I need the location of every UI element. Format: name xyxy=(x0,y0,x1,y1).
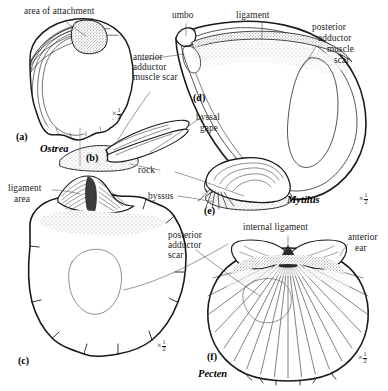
scale-marker-d: ×12 xyxy=(359,193,368,205)
label-area-of-attachment: area of attachment xyxy=(24,6,94,16)
label-ligament: ligament xyxy=(236,10,269,20)
label-internal-ligament: internal ligament xyxy=(243,222,308,232)
label-anterior-adductor-muscle-scar-line2: adductor xyxy=(133,62,166,72)
pecten-valve-f xyxy=(208,240,369,385)
label-byssus: byssus xyxy=(148,191,173,201)
label-line: byssal xyxy=(196,112,220,122)
label-line: scar xyxy=(334,55,349,65)
mytilus-specimen-b xyxy=(60,120,189,171)
label-posterior-adductor-scar-line3: scar xyxy=(168,250,183,260)
label-line: ear xyxy=(355,243,367,253)
label-posterior-adductor-muscle-scar-d: posterior xyxy=(312,22,346,32)
scale-denominator: 2 xyxy=(117,115,121,121)
label-anterior-ear-line2: ear xyxy=(355,243,367,253)
panel-label-a: (a) xyxy=(16,131,28,142)
label-line: posterior xyxy=(168,230,202,240)
panel-label-c: (c) xyxy=(18,355,29,366)
genus-name-pecten: Pecten xyxy=(198,368,227,379)
label-line: adductor xyxy=(318,33,351,43)
label-line: posterior xyxy=(312,22,346,32)
hinge-ligament-area xyxy=(58,176,134,213)
panel-label-e: (e) xyxy=(204,205,215,216)
panel-label-d: (d) xyxy=(193,92,205,103)
scale-marker-c: ×12 xyxy=(157,340,166,352)
bivalve-morphology-figure: area of attachment anterior adductor mus… xyxy=(0,0,388,391)
scale-marker-f: ×12 xyxy=(358,352,367,364)
label-line: muscle xyxy=(327,44,354,54)
label-umbo: umbo xyxy=(172,10,194,20)
label-line: ligament xyxy=(8,183,41,193)
scale-denominator: 2 xyxy=(162,347,166,353)
label-anterior-adductor-muscle-scar: anterior xyxy=(133,52,163,62)
label-line: area xyxy=(14,194,30,204)
genus-name-mytilus: Mytilus xyxy=(287,194,320,205)
label-posterior-adductor-muscle-scar-d-line2: adductor xyxy=(318,33,351,43)
label-line: gape xyxy=(200,123,218,133)
multiply-sign: × xyxy=(112,109,117,118)
label-ligament-area: ligament xyxy=(8,183,41,193)
figure-artwork xyxy=(0,0,388,391)
label-byssal-gape-line2: gape xyxy=(200,123,218,133)
label-line: adductor xyxy=(168,240,201,250)
label-byssal-gape: byssal xyxy=(196,112,220,122)
scale-denominator: 2 xyxy=(363,359,367,365)
genus-name-ostrea: Ostrea xyxy=(40,143,69,154)
multiply-sign: × xyxy=(359,194,364,203)
multiply-sign: × xyxy=(358,353,363,362)
label-line: anterior xyxy=(133,52,163,62)
panel-label-f: (f) xyxy=(207,351,217,362)
scale-marker-a: ×12 xyxy=(112,108,121,120)
panel-label-b: (b) xyxy=(86,152,98,163)
label-anterior-ear: anterior xyxy=(348,232,378,242)
ostrea-interior-c xyxy=(29,176,186,356)
label-posterior-adductor-muscle-scar-d-line3: muscle xyxy=(327,44,354,54)
label-posterior-adductor-scar-line2: adductor xyxy=(168,240,201,250)
label-line: adductor xyxy=(133,62,166,72)
label-ligament-area-line2: area xyxy=(14,194,30,204)
label-line: scar xyxy=(168,250,183,260)
mytilus-byssus-e xyxy=(198,158,292,210)
label-line: anterior xyxy=(348,232,378,242)
scale-denominator: 2 xyxy=(364,200,368,206)
label-line: muscle scar xyxy=(133,72,178,82)
label-rock: rock xyxy=(138,165,155,175)
label-posterior-adductor-muscle-scar-d-line4: scar xyxy=(334,55,349,65)
label-posterior-adductor-scar: posterior xyxy=(168,230,202,240)
multiply-sign: × xyxy=(157,341,162,350)
label-anterior-adductor-muscle-scar-line3: muscle scar xyxy=(133,72,178,82)
